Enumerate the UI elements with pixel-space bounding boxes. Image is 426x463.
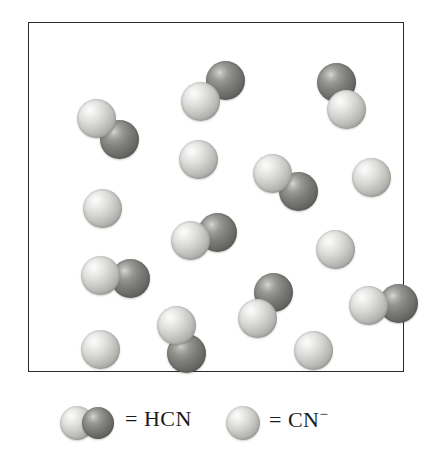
light-sphere-atom xyxy=(77,99,116,138)
legend-formula-cn: CN xyxy=(288,407,320,432)
light-sphere-atom xyxy=(253,154,292,193)
light-sphere-atom xyxy=(179,140,218,179)
light-sphere-atom xyxy=(316,230,355,269)
legend-swatch-hcn-molecule xyxy=(60,402,116,436)
legend: = HCN = CN− xyxy=(28,396,404,448)
legend-light-sphere-icon-2 xyxy=(226,406,260,440)
light-sphere-atom xyxy=(352,158,391,197)
light-sphere-atom xyxy=(294,331,333,370)
light-sphere-atom xyxy=(81,256,120,295)
legend-equals-cn: = xyxy=(269,407,282,432)
legend-formula-hcn: HCN xyxy=(144,406,192,431)
light-sphere-atom xyxy=(238,299,277,338)
light-sphere-atom xyxy=(81,330,120,369)
light-sphere-atom xyxy=(181,82,220,121)
light-sphere-atom xyxy=(157,306,196,345)
light-sphere-atom xyxy=(171,221,210,260)
legend-swatch-cn-ion xyxy=(226,402,260,436)
particle-box xyxy=(28,22,404,372)
light-sphere-atom xyxy=(83,189,122,228)
particulate-diagram-figure: = HCN = CN− xyxy=(0,0,426,463)
legend-label-hcn: = HCN xyxy=(125,408,192,430)
legend-dark-sphere-icon xyxy=(82,407,114,439)
legend-equals-hcn: = xyxy=(125,406,138,431)
light-sphere-atom xyxy=(327,90,366,129)
legend-charge-cn: − xyxy=(319,406,328,422)
legend-entry-cn: = CN− xyxy=(226,398,328,440)
legend-label-cn: = CN− xyxy=(269,407,328,431)
light-sphere-atom xyxy=(349,286,388,325)
legend-entry-hcn: = HCN xyxy=(60,398,192,440)
